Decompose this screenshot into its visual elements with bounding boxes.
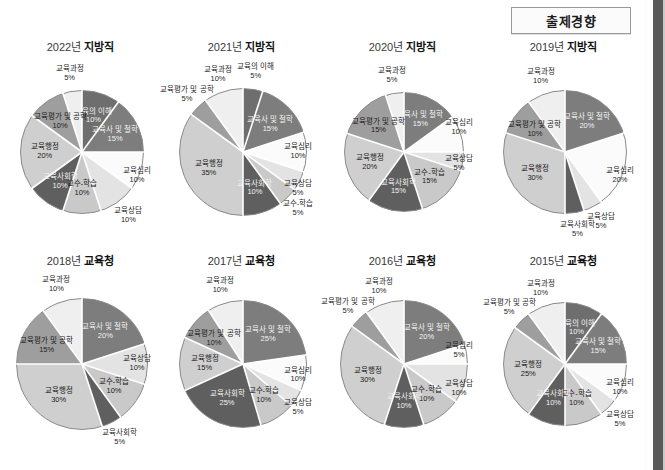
pie-chart-grid: 2022년 지방직교육의 이해10%교육사 및 철학15%교육심리10%교육상담… [0,38,644,466]
chart-row: 2018년 교육청교육사 및 철학20%교육상담10%교수-학습10%교육사회학… [0,252,644,466]
pie-slice-value: 5% [560,230,595,239]
pie-slice-label: 교육과정10% [206,277,234,295]
pie-chart-2022: 2022년 지방직교육의 이해10%교육사 및 철학15%교육심리10%교육상담… [0,38,161,252]
pie-slice-label: 교육상담10% [114,207,142,225]
pie-slice-label: 교육평가 및 공학10% [187,330,240,348]
pie-slice-value: 10% [365,287,393,296]
pie-slice-label: 교육사회학10% [387,394,422,412]
pie-slice-label: 교수-학습5% [283,200,314,218]
pie-slice-value: 20% [356,163,384,172]
pie-slice-value: 25% [210,399,245,408]
pie-area: 교육사 및 철학15%교육심리10%교육상담5%교수-학습15%교육사회학15%… [322,56,483,252]
chart-title-year: 2020년 [369,41,403,53]
chart-title: 2018년 교육청 [0,252,161,270]
pie-area: 교육의 이해10%교육사 및 철학15%교육심리10%교육상담5%교수-학습10… [483,270,644,466]
pie-slice-label: 교육심리10% [123,168,151,186]
pie-chart-2015: 2015년 교육청교육의 이해10%교육사 및 철학15%교육심리10%교육상담… [483,252,644,466]
pie-slice-label: 교육의 이해5% [237,63,274,81]
pie-slice-value: 5% [56,74,84,83]
chart-title-kind: 교육청 [567,255,597,267]
pie-slice-label: 교육행정15% [191,355,219,373]
pie-slice-label: 교수-학습10% [99,378,130,396]
pie-slice-label: 교육과정10% [527,280,555,298]
pie-slice-label: 교육평가 및 공학10% [34,113,87,131]
pie-slice-value: 15% [575,347,621,356]
pie-slice-value: 5% [445,351,473,360]
pie-slice-value: 10% [187,339,240,348]
pie-slice-label: 교육평가 및 공학5% [160,86,213,104]
pie-slice-label: 교육의 이해10% [558,320,595,338]
chart-row: 2022년 지방직교육의 이해10%교육사 및 철학15%교육심리10%교육상담… [0,38,644,252]
pie-slice-label: 교육과정10% [527,68,555,86]
pie-slice-label: 교육과정5% [378,67,406,85]
pie-slice-value: 10% [204,75,232,84]
pie-slice-value: 10% [606,388,634,397]
pie-slice-value: 15% [414,178,445,187]
pie-slice-value: 10% [445,389,473,398]
pie-slice-label: 교수-학습10% [249,387,280,405]
pie-slice-label: 교육사회학10% [237,180,272,198]
pie-slice-value: 10% [114,216,142,225]
pie-slice-label: 교육상담5% [606,411,634,429]
pie-slice-value: 5% [160,95,213,104]
pie-slice-value: 10% [43,182,78,191]
pie-slice-label: 교육행정30% [354,367,382,385]
pie-slice-value: 25% [245,335,291,344]
pie-slice-label: 교육행정30% [45,387,73,405]
pie-slice-label: 교육사 및 철학20% [564,113,610,131]
pie-slice-value: 5% [102,438,137,447]
chart-title-year: 2019년 [530,41,564,53]
pie-slice-label: 교육심리10% [606,380,634,398]
pie-slice-value: 30% [354,376,382,385]
pie-slice-label: 교육평가 및 공학5% [483,299,536,317]
pie-slice-label: 교육사회학5% [560,221,595,239]
chart-title-kind: 교육청 [84,255,114,267]
chart-title-kind: 지방직 [245,41,275,53]
pie-slice-label: 교육상담10% [123,355,151,373]
pie-slice-label: 교육사 및 철학15% [575,338,621,356]
pie-slice-label: 교육행정30% [521,165,549,183]
pie-slice-label: 교육과정5% [56,65,84,83]
pie-slice-label: 교육사회학15% [381,179,416,197]
chart-title: 2017년 교육청 [161,252,322,270]
section-badge-label: 출제경향 [546,11,596,30]
chart-title-kind: 지방직 [567,41,597,53]
pie-slice-value: 15% [381,188,416,197]
pie-slice-value: 10% [527,289,555,298]
pie-slice-value: 30% [521,174,549,183]
page-edge-shadow [653,0,663,470]
pie-slice-label: 교육행정20% [31,143,59,161]
pie-slice-label: 교육과정10% [204,66,232,84]
pie-slice-value: 10% [123,364,151,373]
pie-slices [503,90,627,214]
pie-slice-value: 5% [378,76,406,85]
chart-title: 2020년 지방직 [322,38,483,56]
pie-slice-label: 교육사회학10% [536,391,571,409]
pie-slice-value: 15% [352,127,405,136]
chart-title-kind: 지방직 [406,41,436,53]
pie-slice-value: 30% [45,396,73,405]
pie-slice-label: 교육과정10% [365,278,393,296]
pie-slice-value: 10% [42,285,70,294]
pie-slice-label: 교육평가 및 공학10% [508,121,561,139]
pie-slice-value: 5% [483,308,536,317]
pie-slice-label: 교육사 및 철학25% [245,326,291,344]
chart-title: 2021년 지방직 [161,38,322,56]
pie-slice-value: 10% [34,122,87,131]
pie-slice-value: 5% [284,408,312,417]
pie-slice-value: 20% [404,333,450,342]
section-badge: 출제경향 [511,7,631,34]
chart-title-year: 2021년 [208,41,242,53]
pie-slice-label: 교육평가 및 공학15% [20,337,73,355]
pie-slice-value: 10% [249,396,280,405]
pie-area: 교육의 이해5%교육사 및 철학15%교육심리10%교육상담5%교수-학습5%교… [161,56,322,252]
pie-area: 교육사 및 철학20%교육상담10%교수-학습10%교육사회학5%교육행정30%… [0,270,161,466]
pie-slice-value: 20% [31,152,59,161]
pie-slice-label: 교육사회학10% [43,173,78,191]
pie-slice-value: 5% [445,164,473,173]
chart-title: 2015년 교육청 [483,252,644,270]
pie-slice-label: 교육사 및 철학15% [247,116,293,134]
pie-slice-label: 교육사 및 철학15% [92,126,138,144]
pie-slice-value: 10% [387,402,422,411]
pie-slice-value: 20% [564,122,610,131]
